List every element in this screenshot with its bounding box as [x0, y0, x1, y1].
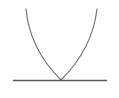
figure-canvas: [0, 0, 119, 98]
figure-background: [0, 0, 119, 98]
geometry-figure: [0, 0, 119, 98]
